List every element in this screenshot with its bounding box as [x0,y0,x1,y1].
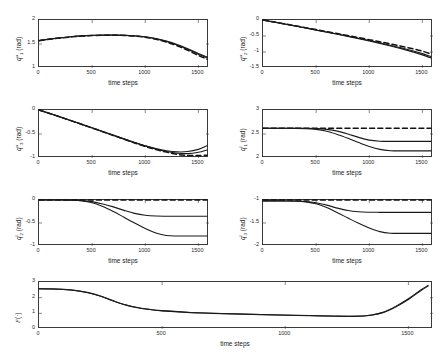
x-tick-label: 500 [147,330,175,336]
plot-area-cost-function [39,282,433,329]
y-tick-label: 3 [16,277,35,283]
x-tick-label: 0 [24,330,52,336]
panel-cost-function: 0123050010001500time stepsF(·) [0,0,447,361]
x-tick-label: 1500 [393,330,421,336]
series-cost-1 [39,286,428,316]
y-axis-label-cost-function: F(·) [14,312,21,322]
axes-cost-function [38,281,432,328]
multi-panel-figure: 11.52050010001500time stepsqu1 (rad)-1.5… [0,0,447,361]
y-tick-label: 2 [16,293,35,299]
x-axis-label-cost-function: time steps [195,340,275,347]
series-cost-2 [39,285,428,316]
x-tick-label: 1000 [270,330,298,336]
